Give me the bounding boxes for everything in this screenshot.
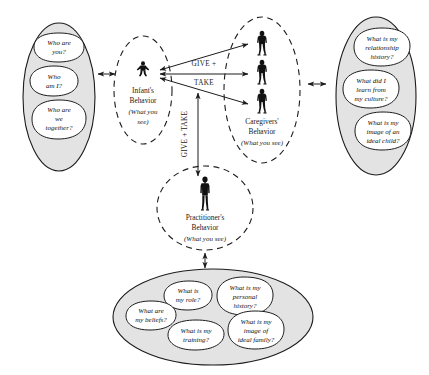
bubble-line: relationship (365, 44, 399, 52)
bubble-relationship-history: What is my relationship history? (354, 28, 410, 66)
node-subtitle-line: (What you see) (241, 139, 284, 147)
bubble-who-are-you: Who are you? (34, 33, 84, 62)
bubble-line: personal (232, 293, 258, 301)
node-title-line: Caregivers' (245, 117, 279, 126)
infant-figure (137, 61, 149, 76)
node-subtitle-line: (What you (129, 108, 158, 116)
bubble-personal-history: What is my personal history? (217, 277, 273, 315)
relationship-diagram: Who are you? Who am I? Who are we togeth… (0, 0, 429, 375)
bubble-who-am-i: Who am I? (30, 66, 78, 96)
practitioner-questions-oval: What is my role? What is my personal his… (113, 269, 313, 365)
bubble-line: learn from (356, 86, 386, 94)
give-take-label-line: TAKE (194, 79, 214, 87)
bubble-line: history? (371, 53, 394, 61)
bubble-line: What is (177, 287, 198, 295)
adult-figure (257, 60, 267, 85)
bubble-line: you? (51, 48, 66, 56)
bubble-line: What is my (180, 327, 212, 335)
practitioner-figure (200, 177, 209, 211)
bubble-learn-from-culture: What did I learn from my culture? (343, 70, 399, 108)
bubble-line: What is my (240, 318, 272, 326)
bubble-my-training: What is my training? (168, 320, 224, 350)
bubble-line: we (55, 115, 63, 123)
bubble-line: What are (138, 307, 164, 315)
node-title-line: Behavior (129, 96, 157, 105)
bubble-line: What is my (229, 284, 261, 292)
infants-behavior-node: Infant's Behavior (What you see) (114, 36, 172, 144)
bubble-line: my role? (176, 296, 201, 304)
bubble-line: Who are (47, 39, 71, 47)
bubble-image-of-ideal-child: What is my image of an ideal child? (355, 112, 411, 150)
bubble-line: What is my (367, 119, 399, 127)
practitioners-behavior-node: Practitioner's Behavior (What you see) (157, 166, 253, 250)
bubble-image-of-ideal-family: What is my image of ideal family? (228, 311, 284, 349)
infant-questions-oval: Who are you? Who am I? Who are we togeth… (23, 23, 95, 171)
bubble-line: image of an (366, 128, 400, 136)
bubble-line: image of (244, 327, 269, 335)
bubble-line: What is my (366, 35, 398, 43)
node-title-line: Behavior (191, 223, 219, 232)
bubble-line: ideal family? (238, 336, 275, 344)
bubble-line: am I? (46, 82, 63, 90)
give-take-vertical: GIVE + TAKE (181, 93, 198, 176)
bubble-line: history? (234, 302, 257, 310)
adult-figure (257, 31, 267, 56)
adult-figure (257, 89, 267, 114)
caregiver-questions-oval: What is my relationship history? What di… (336, 17, 416, 175)
give-take-label-line: GIVE + (192, 60, 217, 68)
bubble-line: Who (48, 73, 61, 81)
bubble-line: my culture? (355, 95, 388, 103)
give-take-label-vertical: GIVE + TAKE (181, 110, 189, 157)
bubble-my-beliefs: What are my beliefs? (126, 301, 176, 330)
caregivers-behavior-node: Caregivers' Behavior (What you see) (224, 17, 300, 163)
bubble-line: training? (183, 336, 210, 344)
bubble-line: ideal child? (366, 137, 400, 145)
bubble-line: What did I (356, 77, 386, 85)
bubble-line: together? (46, 124, 73, 132)
bubble-line: my beliefs? (135, 316, 167, 324)
bubble-line: Who are (47, 106, 71, 114)
node-title-line: Behavior (248, 127, 276, 136)
bubble-who-are-we-together: Who are we together? (32, 100, 86, 139)
give-take-horizontal: GIVE + TAKE (160, 44, 248, 104)
node-title-line: Infant's (132, 86, 154, 95)
node-subtitle-line: (What you see) (184, 235, 227, 243)
node-subtitle-line: see) (137, 118, 149, 126)
node-title-line: Practitioner's (186, 213, 225, 222)
